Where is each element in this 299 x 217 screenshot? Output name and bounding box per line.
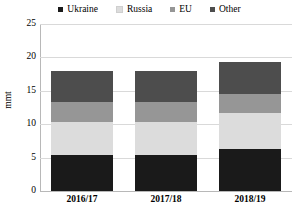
bar-segment-eu[interactable] (135, 102, 197, 123)
bar-group-2017-18[interactable] (135, 24, 197, 191)
y-axis-tick-label: 25 (2, 19, 36, 29)
legend-label: EU (179, 5, 192, 15)
y-axis-tick-label: 20 (2, 52, 36, 62)
bar-segment-eu[interactable] (51, 102, 113, 123)
chart-legend: UkraineRussiaEUOther (0, 2, 299, 17)
y-axis-tick-label: 5 (2, 153, 36, 163)
legend-label: Ukraine (67, 5, 98, 15)
legend-item-russia[interactable]: Russia (116, 5, 152, 15)
bar-segment-ukraine[interactable] (51, 155, 113, 191)
legend-item-ukraine[interactable]: Ukraine (58, 5, 98, 15)
legend-item-eu[interactable]: EU (170, 5, 192, 15)
x-axis: 2016/172017/182018/19 (40, 193, 292, 213)
bar-segment-other[interactable] (219, 62, 281, 94)
bar-segment-russia[interactable] (135, 122, 197, 155)
legend-swatch-icon (116, 6, 123, 13)
x-axis-tick-label: 2016/17 (42, 195, 122, 205)
bar-segment-ukraine[interactable] (135, 155, 197, 191)
x-axis-tick-label: 2018/19 (210, 195, 290, 205)
bar-group-2018-19[interactable] (219, 24, 281, 191)
bar-segment-eu[interactable] (219, 94, 281, 113)
bar-group-2016-17[interactable] (51, 24, 113, 191)
bar-segment-russia[interactable] (219, 113, 281, 149)
legend-swatch-icon (58, 7, 63, 12)
stacked-bar-chart: UkraineRussiaEUOther 0510152025 mmt 2016… (0, 0, 299, 217)
legend-swatch-icon (210, 7, 215, 12)
bars-layer (40, 24, 292, 191)
legend-swatch-icon (170, 7, 175, 12)
bar-segment-russia[interactable] (51, 122, 113, 155)
legend-label: Other (219, 5, 241, 15)
legend-item-other[interactable]: Other (210, 5, 241, 15)
bar-segment-ukraine[interactable] (219, 149, 281, 191)
y-axis-tick-label: 0 (2, 186, 36, 196)
x-axis-tick-label: 2017/18 (126, 195, 206, 205)
bar-segment-other[interactable] (51, 71, 113, 102)
legend-label: Russia (127, 5, 152, 15)
bar-segment-other[interactable] (135, 71, 197, 102)
x-axis-line (40, 191, 292, 192)
y-axis-title: mmt (3, 75, 13, 125)
